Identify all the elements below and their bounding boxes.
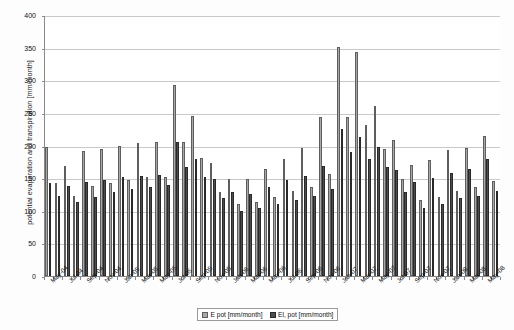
bar-group bbox=[300, 16, 309, 276]
bar-e-pot bbox=[401, 179, 404, 276]
bar-et-pot bbox=[459, 198, 462, 276]
bar-et-pot bbox=[468, 169, 471, 276]
bar-group bbox=[328, 16, 337, 276]
bar-group bbox=[91, 16, 100, 276]
bar-e-pot bbox=[237, 204, 240, 276]
y-tick-label: 150 bbox=[2, 175, 36, 183]
bar-group bbox=[237, 16, 246, 276]
bar-e-pot bbox=[127, 180, 130, 276]
bar-group bbox=[54, 16, 63, 276]
bar-e-pot bbox=[283, 159, 286, 276]
bar-e-pot bbox=[118, 146, 121, 276]
y-tick-mark bbox=[42, 179, 45, 180]
bar-e-pot bbox=[474, 187, 477, 276]
bar-group bbox=[337, 16, 346, 276]
bar-et-pot bbox=[304, 176, 307, 276]
bar-group bbox=[273, 16, 282, 276]
bar-e-pot bbox=[137, 143, 140, 276]
bar-group bbox=[474, 16, 483, 276]
bar-et-pot bbox=[113, 192, 116, 276]
y-tick-mark bbox=[42, 244, 45, 245]
y-tick-mark bbox=[42, 114, 45, 115]
bar-e-pot bbox=[310, 187, 313, 276]
bar-et-pot bbox=[131, 189, 134, 276]
bar-group bbox=[136, 16, 145, 276]
bar-group bbox=[45, 16, 54, 276]
bar-group bbox=[264, 16, 273, 276]
bar-group bbox=[81, 16, 90, 276]
bar-et-pot bbox=[213, 179, 216, 276]
bar-group bbox=[382, 16, 391, 276]
legend-item-et-pot: El, pot [mm/month] bbox=[270, 311, 334, 318]
y-tick-mark bbox=[42, 147, 45, 148]
bar-group bbox=[364, 16, 373, 276]
bar-e-pot bbox=[210, 163, 213, 276]
bar-group bbox=[446, 16, 455, 276]
bar-e-pot bbox=[146, 177, 149, 276]
legend-swatch-icon-e-pot bbox=[202, 312, 208, 318]
bar-et-pot bbox=[195, 159, 198, 276]
bar-et-pot bbox=[204, 177, 207, 276]
bar-group bbox=[255, 16, 264, 276]
bar-e-pot bbox=[173, 85, 176, 276]
bar-e-pot bbox=[419, 200, 422, 276]
x-axis-tick-labels: May-04Jul-04Sep-04Nov-04Jan-05Mar-05May-… bbox=[44, 279, 504, 309]
bar-et-pot bbox=[313, 196, 316, 276]
bar-e-pot bbox=[273, 197, 276, 276]
bar-e-pot bbox=[191, 116, 194, 277]
y-tick-label: 50 bbox=[2, 240, 36, 248]
bar-et-pot bbox=[94, 197, 97, 276]
bar-et-pot bbox=[249, 194, 252, 276]
bar-e-pot bbox=[337, 47, 340, 276]
bar-et-pot bbox=[432, 178, 435, 276]
bar-et-pot bbox=[404, 192, 407, 276]
y-tick-label: 400 bbox=[2, 12, 36, 20]
bar-group bbox=[154, 16, 163, 276]
bar-et-pot bbox=[158, 175, 161, 276]
bar-e-pot bbox=[182, 142, 185, 276]
bar-e-pot bbox=[438, 197, 441, 276]
bar-et-pot bbox=[450, 173, 453, 276]
bar-group bbox=[346, 16, 355, 276]
legend-swatch-icon-et-pot bbox=[270, 312, 276, 318]
bar-group bbox=[118, 16, 127, 276]
bar-group bbox=[492, 16, 501, 276]
bar-series-container bbox=[45, 16, 500, 276]
bar-et-pot bbox=[486, 159, 489, 276]
bar-group bbox=[319, 16, 328, 276]
bar-et-pot bbox=[350, 152, 353, 276]
bar-et-pot bbox=[295, 200, 298, 276]
bar-group bbox=[428, 16, 437, 276]
bar-group bbox=[392, 16, 401, 276]
bar-group bbox=[173, 16, 182, 276]
bar-e-pot bbox=[55, 183, 58, 276]
bar-group bbox=[182, 16, 191, 276]
bar-e-pot bbox=[365, 125, 368, 276]
bar-e-pot bbox=[73, 196, 76, 276]
legend-label-e-pot: E pot [mm/month] bbox=[211, 311, 263, 318]
bar-group bbox=[218, 16, 227, 276]
bar-e-pot bbox=[319, 117, 322, 276]
bar-et-pot bbox=[368, 159, 371, 276]
bar-e-pot bbox=[410, 165, 413, 276]
legend-label-et-pot: El, pot [mm/month] bbox=[278, 311, 333, 318]
bar-e-pot bbox=[301, 148, 304, 276]
bar-e-pot bbox=[109, 183, 112, 276]
bar-et-pot bbox=[231, 192, 234, 276]
bar-et-pot bbox=[441, 204, 444, 276]
bar-e-pot bbox=[64, 166, 67, 276]
bar-et-pot bbox=[58, 196, 61, 276]
bar-et-pot bbox=[322, 166, 325, 276]
legend-item-e-pot: E pot [mm/month] bbox=[202, 311, 263, 318]
bar-et-pot bbox=[167, 185, 170, 276]
bar-group bbox=[164, 16, 173, 276]
bar-e-pot bbox=[492, 181, 495, 276]
bar-e-pot bbox=[392, 140, 395, 276]
y-tick-label: 350 bbox=[2, 45, 36, 53]
bar-group bbox=[100, 16, 109, 276]
bar-et-pot bbox=[49, 183, 52, 276]
bar-group bbox=[191, 16, 200, 276]
bar-et-pot bbox=[67, 186, 70, 276]
bar-et-pot bbox=[122, 177, 125, 276]
bar-group bbox=[72, 16, 81, 276]
